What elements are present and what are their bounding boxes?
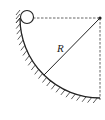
radius-label: R: [56, 42, 64, 54]
radius-line: [44, 18, 100, 75]
center-point: [98, 16, 101, 19]
physics-diagram: R: [0, 0, 105, 120]
ball: [21, 11, 34, 24]
